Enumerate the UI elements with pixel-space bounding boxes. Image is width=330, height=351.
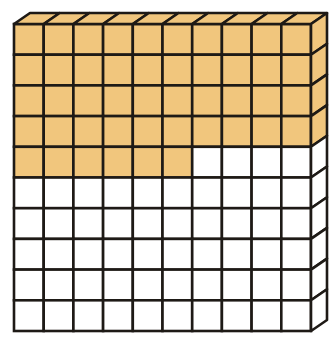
shaded-unit-cube [133, 147, 163, 178]
shaded-unit-cube [44, 147, 74, 178]
shaded-unit-cube [163, 85, 193, 116]
shaded-unit-cube [73, 116, 103, 147]
unit-cube [44, 239, 74, 270]
shaded-unit-cube [192, 116, 222, 147]
unit-cube [163, 208, 193, 239]
unit-cube [73, 300, 103, 331]
unit-cube [222, 270, 252, 301]
unit-cube [14, 208, 44, 239]
shaded-unit-cube [252, 24, 282, 55]
shaded-unit-cube [281, 24, 311, 55]
unit-cube [222, 239, 252, 270]
unit-cube [252, 147, 282, 178]
unit-cube [44, 270, 74, 301]
shaded-unit-cube [222, 116, 252, 147]
unit-cube [252, 239, 282, 270]
shaded-unit-cube [14, 24, 44, 55]
unit-cube [252, 208, 282, 239]
unit-cube [192, 270, 222, 301]
unit-cube [44, 300, 74, 331]
unit-cube [163, 239, 193, 270]
shaded-unit-cube [103, 24, 133, 55]
shaded-unit-cube [14, 55, 44, 86]
shaded-unit-cube [252, 55, 282, 86]
shaded-unit-cube [73, 147, 103, 178]
unit-cube [103, 270, 133, 301]
shaded-unit-cube [252, 85, 282, 116]
unit-cube [133, 239, 163, 270]
unit-cube [14, 178, 44, 209]
unit-cube [133, 208, 163, 239]
unit-cube [14, 239, 44, 270]
shaded-unit-cube [44, 85, 74, 116]
shaded-unit-cube [281, 116, 311, 147]
shaded-unit-cube [103, 147, 133, 178]
unit-cube [133, 178, 163, 209]
flat-block-graphic [0, 0, 330, 351]
shaded-unit-cube [73, 24, 103, 55]
unit-cube [103, 300, 133, 331]
shaded-unit-cube [192, 55, 222, 86]
unit-cube [192, 239, 222, 270]
unit-cube [103, 239, 133, 270]
shaded-unit-cube [163, 147, 193, 178]
shaded-unit-cube [73, 85, 103, 116]
shaded-unit-cube [133, 24, 163, 55]
unit-cube [103, 208, 133, 239]
shaded-unit-cube [222, 85, 252, 116]
unit-cube [73, 178, 103, 209]
shaded-unit-cube [73, 55, 103, 86]
unit-cube [163, 300, 193, 331]
unit-cube [222, 178, 252, 209]
shaded-unit-cube [163, 55, 193, 86]
unit-cube [281, 300, 311, 331]
unit-cube [281, 208, 311, 239]
shaded-unit-cube [133, 85, 163, 116]
unit-cube [73, 208, 103, 239]
shaded-unit-cube [163, 24, 193, 55]
unit-cube [222, 147, 252, 178]
unit-cube [252, 270, 282, 301]
unit-cube [103, 178, 133, 209]
unit-cube [281, 239, 311, 270]
unit-cube [281, 178, 311, 209]
shaded-unit-cube [281, 55, 311, 86]
unit-cube [192, 300, 222, 331]
unit-cube [192, 178, 222, 209]
unit-cube [44, 208, 74, 239]
unit-cube [281, 147, 311, 178]
shaded-unit-cube [44, 24, 74, 55]
shaded-unit-cube [163, 116, 193, 147]
shaded-unit-cube [281, 85, 311, 116]
shaded-unit-cube [133, 55, 163, 86]
unit-cube [222, 300, 252, 331]
unit-cube [192, 147, 222, 178]
unit-cube [73, 270, 103, 301]
unit-cube [133, 270, 163, 301]
unit-cube [281, 270, 311, 301]
unit-cube [222, 208, 252, 239]
base-ten-flat-diagram: 10 by 10 flat of unit cubes with some cu… [0, 0, 330, 351]
unit-cube [133, 300, 163, 331]
shaded-unit-cube [44, 55, 74, 86]
shaded-unit-cube [103, 55, 133, 86]
unit-cube [44, 178, 74, 209]
unit-cube [163, 178, 193, 209]
shaded-unit-cube [192, 24, 222, 55]
shaded-unit-cube [222, 55, 252, 86]
unit-cube [14, 270, 44, 301]
shaded-unit-cube [252, 116, 282, 147]
shaded-unit-cube [14, 85, 44, 116]
shaded-unit-cube [44, 116, 74, 147]
unit-cube [163, 270, 193, 301]
shaded-unit-cube [103, 85, 133, 116]
shaded-unit-cube [192, 85, 222, 116]
unit-cube [73, 239, 103, 270]
shaded-unit-cube [103, 116, 133, 147]
unit-cube [252, 300, 282, 331]
shaded-unit-cube [133, 116, 163, 147]
unit-cube [14, 300, 44, 331]
shaded-unit-cube [222, 24, 252, 55]
unit-cube [252, 178, 282, 209]
shaded-unit-cube [14, 116, 44, 147]
